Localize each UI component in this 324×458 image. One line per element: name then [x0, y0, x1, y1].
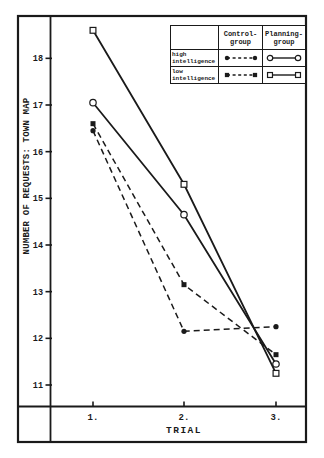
- x-tick-label: 3.: [271, 413, 282, 423]
- open-circle-marker: [267, 55, 272, 60]
- legend-row-label-high-intelligence: high intelligence: [171, 50, 219, 67]
- open-square-marker: [90, 27, 96, 33]
- legend-table: Control- group Planning- group high inte…: [170, 25, 306, 84]
- open-circle-marker: [90, 99, 96, 105]
- x-tick-label: 1.: [88, 413, 99, 423]
- legend-sample-dashed-circle-icon: [222, 52, 260, 64]
- legend-header-row: Control- group Planning- group: [171, 26, 306, 50]
- figure-line-chart: 11121314151617181.2.3.NUMBER OF REQUESTS…: [0, 0, 324, 458]
- y-tick-label: 17: [33, 101, 43, 111]
- filled-square-marker: [252, 73, 256, 77]
- y-tick-label: 12: [33, 334, 43, 344]
- filled-circle-marker: [252, 56, 256, 60]
- filled-square-marker: [224, 73, 228, 77]
- x-tick-label: 2.: [179, 413, 190, 423]
- legend-header-control-group: Control- group: [219, 26, 263, 50]
- legend-sample-planning-high: [263, 50, 306, 67]
- legend-row-label-low-intelligence: low intelligence: [171, 67, 219, 84]
- legend-sample-control-high: [219, 50, 263, 67]
- legend-header-planning-group: Planning- group: [263, 26, 306, 50]
- open-circle-marker: [181, 211, 187, 217]
- filled-square-marker: [182, 282, 187, 287]
- open-square-marker: [296, 73, 301, 78]
- y-tick-label: 11: [33, 381, 43, 391]
- filled-circle-marker: [224, 56, 228, 60]
- y-tick-label: 15: [33, 194, 43, 204]
- y-tick-label: 18: [33, 54, 43, 64]
- filled-square-marker: [274, 352, 279, 357]
- open-square-marker: [268, 73, 273, 78]
- legend-sample-solid-square-icon: [265, 69, 303, 81]
- series-line-2: [93, 103, 276, 364]
- legend-row-high-intelligence: high intelligence: [171, 50, 306, 67]
- x-axis-title: TRIAL: [166, 425, 202, 436]
- filled-circle-marker: [273, 324, 278, 329]
- legend-row-low-intelligence: low intelligence: [171, 67, 306, 84]
- open-square-marker: [273, 370, 279, 376]
- filled-circle-marker: [90, 128, 95, 133]
- open-circle-marker: [273, 361, 279, 367]
- y-tick-label: 13: [33, 288, 43, 298]
- legend-sample-solid-circle-icon: [265, 52, 303, 64]
- y-tick-label: 16: [33, 148, 43, 158]
- filled-circle-marker: [181, 329, 186, 334]
- open-circle-marker: [295, 55, 300, 60]
- legend-sample-planning-low: [263, 67, 306, 84]
- y-tick-label: 14: [33, 241, 43, 251]
- y-axis-title: NUMBER OF REQUESTS: TOWN MAP: [22, 97, 32, 254]
- legend-sample-control-low: [219, 67, 263, 84]
- filled-square-marker: [91, 121, 96, 126]
- legend-corner-cell: [171, 26, 219, 50]
- legend-sample-dashed-square-icon: [222, 69, 260, 81]
- series-line-0: [93, 131, 276, 332]
- open-square-marker: [181, 181, 187, 187]
